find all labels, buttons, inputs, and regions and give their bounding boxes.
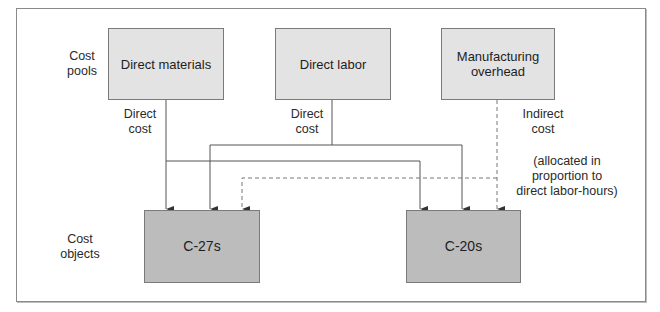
- cost-object-c-20s: C-20s: [406, 210, 521, 283]
- direct-labor-connector: [210, 100, 462, 209]
- cost-object-c-27s: C-27s: [144, 210, 260, 283]
- edge-label-direct-labor: Direct cost: [285, 107, 329, 137]
- edge-label-overhead: Indirect cost: [515, 107, 571, 137]
- edge-note-overhead-allocation: (allocated in proportion to direct labor…: [506, 154, 628, 199]
- row-label-cost-pools: Cost pools: [60, 49, 104, 79]
- overhead-connector: [242, 100, 497, 209]
- edge-label-direct-materials: Direct cost: [118, 107, 162, 137]
- cost-pool-manufacturing-overhead: Manufacturing overhead: [441, 28, 555, 100]
- cost-pool-direct-labor: Direct labor: [275, 28, 391, 100]
- cost-pool-direct-materials: Direct materials: [108, 28, 224, 100]
- row-label-cost-objects: Cost objects: [52, 232, 108, 262]
